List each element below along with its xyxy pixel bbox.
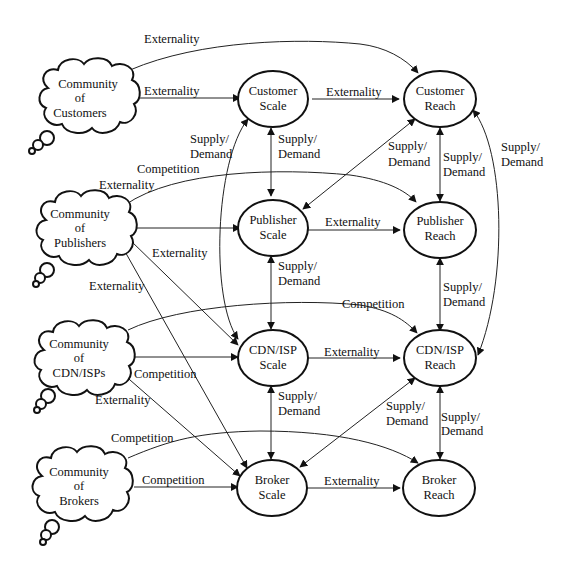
- label-externality-customers-reach: Externality: [144, 32, 200, 46]
- community-publishers-cloud: Community of Publishers: [33, 190, 137, 287]
- publisher-reach-line2: Reach: [424, 229, 456, 243]
- cdnisps-line3: CDN/ISPs: [53, 366, 106, 380]
- label-supply-cr-pr: Supply/: [443, 150, 482, 164]
- label-externality-broker-scale-reach: Externality: [324, 474, 380, 488]
- label-demand-cs-ps: Demand: [278, 147, 321, 161]
- label-competition-brokers-reach: Competition: [111, 431, 174, 445]
- label-competition-brokers-scale: Competition: [142, 473, 205, 487]
- publishers-line2: of: [75, 221, 86, 235]
- broker-reach-line1: Broker: [422, 473, 458, 487]
- publisher-reach-line1: Publisher: [416, 214, 464, 228]
- node-cdnisp-reach: CDN/ISP Reach: [404, 330, 476, 386]
- label-supply-ps-cdns: Supply/: [278, 259, 317, 273]
- publishers-line3: Publishers: [54, 236, 106, 250]
- label-demand-cdns-bs: Demand: [278, 404, 321, 418]
- community-customers-cloud: Community of Customers: [29, 58, 140, 154]
- label-demand-ps-cdns: Demand: [278, 274, 321, 288]
- label-supply-cr-ps: Supply/: [388, 139, 427, 153]
- ecosystem-diagram: Externality Externality Externality Supp…: [0, 0, 570, 576]
- edge-customers-to-customer-reach: [130, 41, 418, 73]
- broker-reach-line2: Reach: [423, 488, 455, 502]
- label-supply-cdnr-br: Supply/: [441, 410, 480, 424]
- label-supply-cr-cdnr: Supply/: [501, 140, 540, 154]
- label-externality-customers-scale: Externality: [144, 84, 200, 98]
- label-externality-publisher-scale-reach: Externality: [325, 215, 381, 229]
- label-demand-cr-ps: Demand: [388, 155, 431, 169]
- label-demand-cdnr-br: Demand: [441, 424, 484, 438]
- node-publisher-reach: Publisher Reach: [404, 202, 476, 258]
- label-supply-left: Supply/: [190, 132, 229, 146]
- customer-reach-line1: Customer: [416, 84, 465, 98]
- label-demand-cdnr-bs: Demand: [386, 414, 429, 428]
- label-externality-publishers-customer-scale: Externality: [99, 178, 155, 192]
- customers-line2: of: [75, 91, 86, 105]
- node-broker-scale: Broker Scale: [237, 460, 307, 516]
- label-externality-customer-scale-reach: Externality: [326, 85, 382, 99]
- customers-line1: Community: [58, 77, 118, 91]
- cdnisps-line1: Community: [49, 337, 109, 351]
- node-broker-reach: Broker Reach: [403, 460, 475, 516]
- label-supply-cdnr-bs: Supply/: [386, 399, 425, 413]
- cdnisp-scale-line1: CDN/ISP: [249, 343, 297, 357]
- node-cdnisp-scale: CDN/ISP Scale: [238, 330, 308, 386]
- label-competition-publishers-broker: Competition: [134, 367, 197, 381]
- customers-line3: Customers: [53, 106, 107, 120]
- customer-reach-line2: Reach: [424, 99, 456, 113]
- brokers-line1: Community: [49, 465, 109, 479]
- broker-scale-line1: Broker: [255, 473, 291, 487]
- label-supply-cdns-bs: Supply/: [278, 389, 317, 403]
- broker-scale-line2: Scale: [258, 488, 286, 502]
- cdnisp-scale-line2: Scale: [259, 358, 287, 372]
- label-externality-publishers-cdnisp-scale: Externality: [152, 246, 208, 260]
- cdnisps-line2: of: [74, 351, 85, 365]
- label-competition-publishers-reach: Competition: [137, 162, 200, 176]
- label-demand-cr-cdnr: Demand: [501, 155, 544, 169]
- cdnisp-reach-line1: CDN/ISP: [416, 343, 464, 357]
- node-customer-scale: Customer Scale: [238, 71, 308, 127]
- label-supply-pr-cdnr: Supply/: [443, 280, 482, 294]
- community-brokers-cloud: Community of Brokers: [33, 446, 133, 545]
- label-demand-left: Demand: [190, 147, 233, 161]
- cdnisp-reach-line2: Reach: [424, 358, 456, 372]
- node-publisher-scale: Publisher Scale: [238, 200, 308, 256]
- brokers-line3: Brokers: [59, 494, 99, 508]
- publisher-scale-line1: Publisher: [249, 213, 297, 227]
- label-demand-pr-cdnr: Demand: [443, 295, 486, 309]
- label-externality-cdnisp-scale-reach: Externality: [324, 345, 380, 359]
- label-supply-cs-ps: Supply/: [278, 132, 317, 146]
- node-customer-reach: Customer Reach: [404, 71, 476, 127]
- customer-scale-line1: Customer: [249, 84, 298, 98]
- customer-scale-line2: Scale: [259, 99, 287, 113]
- label-externality-publishers-broker-scale: Externality: [89, 279, 145, 293]
- brokers-line2: of: [74, 479, 85, 493]
- label-demand-cr-pr: Demand: [443, 165, 486, 179]
- publisher-scale-line2: Scale: [259, 228, 287, 242]
- label-competition-cdnisps-reach: Competition: [342, 297, 405, 311]
- publishers-line1: Community: [50, 207, 110, 221]
